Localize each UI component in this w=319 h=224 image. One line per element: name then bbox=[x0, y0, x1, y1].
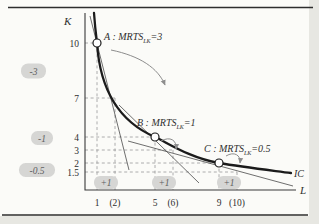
point-c-annotation: C : MRTSLK=0.5 bbox=[204, 143, 271, 156]
y-tick-1-5: 1.5 bbox=[67, 168, 79, 178]
point-c-marker bbox=[215, 159, 223, 167]
l-axis-label: L bbox=[299, 184, 306, 196]
point-c-value: =0.5 bbox=[251, 143, 270, 154]
figure-canvas: 10 7 4 3 2 1.5 1 (2) 5 (6) 9 (10) K L IC… bbox=[0, 0, 319, 224]
point-a-value: =3 bbox=[151, 31, 163, 42]
x-tick-1: 1 bbox=[95, 198, 100, 208]
x-tick-5: 5 bbox=[153, 198, 158, 208]
y-tick-10: 10 bbox=[70, 39, 80, 49]
point-b-annotation: B : MRTSLK=1 bbox=[137, 117, 196, 130]
point-a-text: A : MRTS bbox=[103, 31, 143, 42]
point-a-marker bbox=[93, 39, 101, 47]
point-b-value: =1 bbox=[184, 117, 196, 128]
x-tick-10: (10) bbox=[229, 198, 245, 209]
k-axis-label: K bbox=[63, 15, 72, 27]
x-tick-9: 9 bbox=[217, 198, 222, 208]
pill-minus-0-5-label: -0.5 bbox=[29, 166, 44, 176]
pill-minus-1-label: -1 bbox=[38, 134, 46, 144]
point-b-marker bbox=[151, 133, 159, 141]
y-tick-3: 3 bbox=[74, 146, 79, 156]
step-pills: +1 +1 +1 bbox=[94, 176, 241, 189]
y-tick-4: 4 bbox=[74, 133, 79, 143]
point-b-text: B : MRTS bbox=[137, 117, 176, 128]
pill-plus-1-c-label: +1 bbox=[223, 178, 234, 188]
pill-plus-1-a-label: +1 bbox=[100, 178, 111, 188]
y-tick-7: 7 bbox=[74, 94, 79, 104]
point-a-annotation: A : MRTSLK=3 bbox=[103, 31, 162, 44]
pill-plus-1-b-label: +1 bbox=[158, 178, 169, 188]
x-tick-6: (6) bbox=[167, 198, 178, 209]
isoquant-figure: 10 7 4 3 2 1.5 1 (2) 5 (6) 9 (10) K L IC… bbox=[0, 0, 319, 224]
ic-curve-label: IC bbox=[293, 168, 304, 179]
point-c-text: C : MRTS bbox=[204, 143, 244, 154]
x-tick-2: (2) bbox=[109, 198, 120, 209]
pill-minus-3-label: -3 bbox=[30, 67, 38, 77]
